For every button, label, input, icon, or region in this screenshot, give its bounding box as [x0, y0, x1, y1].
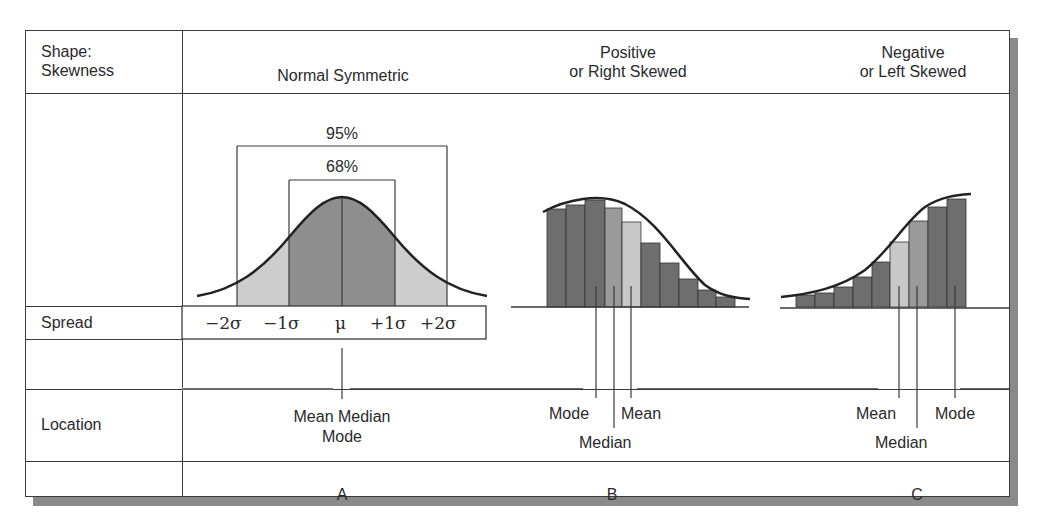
spread-tick-mu: μ [335, 314, 346, 333]
column-a-letter: A [322, 485, 362, 504]
spread-tick-plus1sigma: +1σ [370, 314, 407, 333]
right-skew-mode-label: Mode [549, 404, 589, 423]
left-skew-median-label: Median [875, 433, 927, 452]
left-skew-mean-label: Mean [856, 404, 896, 423]
right-skew-histogram [547, 200, 735, 307]
spread-tick-minus2sigma: −2σ [205, 314, 242, 333]
normal-location-line1: Mean Median [262, 407, 422, 426]
normal-location-line2: Mode [262, 427, 422, 446]
column-b-letter: B [592, 485, 632, 504]
left-skew-mode-label: Mode [935, 404, 975, 423]
spread-tick-minus1sigma: −1σ [263, 314, 300, 333]
interval-68-label: 68% [302, 157, 382, 176]
column-c-letter: C [897, 485, 937, 504]
right-skew-median-label: Median [579, 433, 631, 452]
right-skew-mean-label: Mean [621, 404, 661, 423]
spread-tick-plus2sigma: +2σ [420, 314, 457, 333]
interval-95-label: 95% [302, 124, 382, 143]
